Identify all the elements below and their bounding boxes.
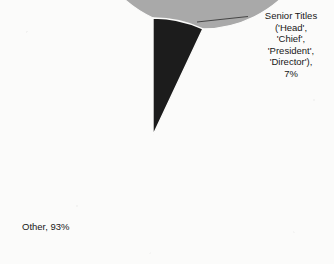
pie-chart-figure: Senior Titles ('Head', 'Chief', 'Preside… bbox=[0, 0, 334, 264]
senior-label-line-4: 'President', bbox=[250, 45, 332, 57]
senior-label-line-6: 7% bbox=[250, 68, 332, 80]
senior-label-line-5: 'Director'), bbox=[250, 56, 332, 68]
pie-slice-senior-titles bbox=[153, 18, 203, 135]
senior-label-line-1: Senior Titles bbox=[250, 10, 332, 22]
senior-label-line-2: ('Head', bbox=[250, 22, 332, 34]
pie-label-senior-titles: Senior Titles ('Head', 'Chief', 'Preside… bbox=[250, 10, 332, 80]
other-label-text: Other, 93% bbox=[22, 221, 70, 233]
pie-label-other: Other, 93% bbox=[22, 221, 70, 233]
senior-label-line-3: 'Chief', bbox=[250, 33, 332, 45]
